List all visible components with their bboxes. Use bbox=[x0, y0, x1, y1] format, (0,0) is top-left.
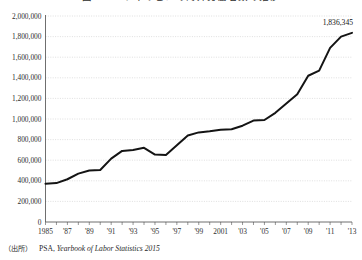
x-tick-label: '13 bbox=[348, 227, 357, 236]
line-chart: 0200,000400,000600,000800,0001,000,0001,… bbox=[0, 0, 362, 240]
figure-container: 図2－2 フィリピンの海外労働者数の推移 0200,000400,000600,… bbox=[0, 0, 362, 260]
x-tick-label: 1985 bbox=[38, 227, 53, 236]
source-organization: PSA, bbox=[39, 244, 55, 253]
y-tick-label: 2,000,000 bbox=[12, 12, 42, 21]
x-tick-label: '99 bbox=[194, 227, 203, 236]
y-tick-label: 400,000 bbox=[17, 176, 41, 185]
y-tick-label: 1,000,000 bbox=[12, 115, 42, 124]
y-axis-tick-labels: 0200,000400,000600,000800,0001,000,0001,… bbox=[12, 12, 42, 227]
x-tick-label: '09 bbox=[304, 227, 313, 236]
source-prefix: （出所） bbox=[4, 244, 32, 253]
y-tick-label: 1,600,000 bbox=[12, 53, 42, 62]
x-tick-label: '03 bbox=[238, 227, 247, 236]
x-tick-label: '89 bbox=[85, 227, 94, 236]
x-axis-tick-labels: 1985'87'89'91'93'95'97'992001'03'05'07'0… bbox=[38, 227, 357, 236]
x-tick-label: '07 bbox=[282, 227, 291, 236]
gridlines-group bbox=[46, 16, 353, 201]
data-annotations: 1,836,345 bbox=[323, 18, 354, 27]
y-tick-label: 600,000 bbox=[17, 156, 41, 165]
x-tick-label: '87 bbox=[63, 227, 72, 236]
y-tick-label: 1,200,000 bbox=[12, 94, 42, 103]
source-publication: Yearbook of Labor Statistics 2015 bbox=[57, 244, 160, 253]
data-series-line bbox=[46, 33, 353, 184]
x-tick-label: '11 bbox=[326, 227, 335, 236]
y-tick-label: 0 bbox=[38, 218, 42, 227]
x-axis-tick-marks bbox=[46, 222, 353, 225]
y-tick-label: 1,400,000 bbox=[12, 73, 42, 82]
y-tick-label: 200,000 bbox=[17, 197, 41, 206]
x-tick-label: 2001 bbox=[213, 227, 228, 236]
source-note: （出所）PSA, Yearbook of Labor Statistics 20… bbox=[4, 243, 354, 254]
x-tick-label: '91 bbox=[107, 227, 116, 236]
x-tick-label: '95 bbox=[151, 227, 160, 236]
x-tick-label: '93 bbox=[129, 227, 138, 236]
chart-area: 0200,000400,000600,000800,0001,000,0001,… bbox=[0, 0, 362, 240]
y-tick-label: 1,800,000 bbox=[12, 32, 42, 41]
data-point-value-label: 1,836,345 bbox=[323, 18, 354, 27]
x-tick-label: '05 bbox=[260, 227, 269, 236]
y-tick-label: 800,000 bbox=[17, 135, 41, 144]
x-tick-label: '97 bbox=[172, 227, 181, 236]
